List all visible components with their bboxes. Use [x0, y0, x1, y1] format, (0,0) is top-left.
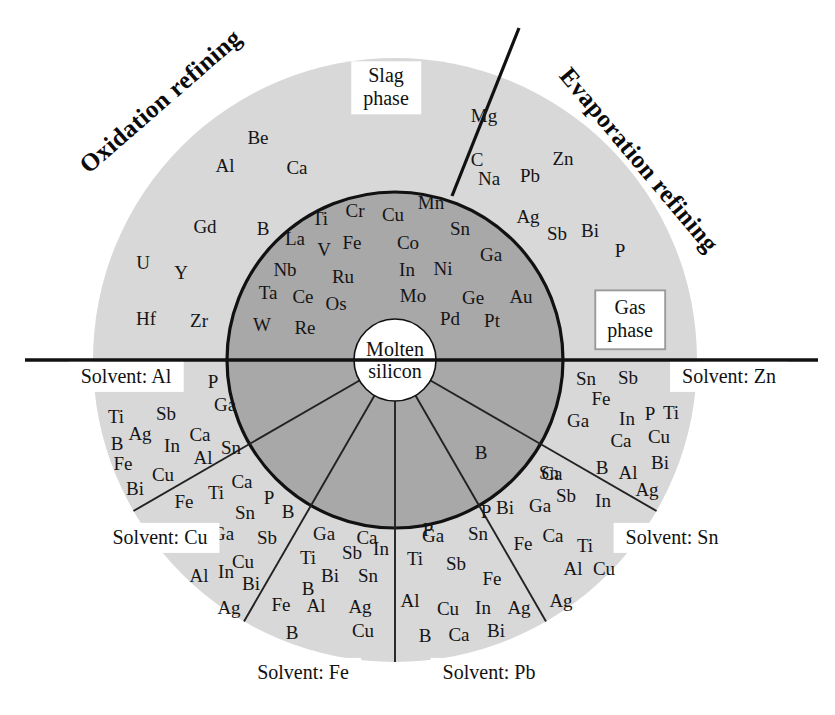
element-symbol: Pt — [484, 311, 500, 330]
element-symbol: W — [253, 315, 271, 334]
element-symbol: Ti — [208, 483, 224, 502]
element-symbol: In — [399, 260, 415, 279]
element-symbol: Mg — [471, 106, 497, 125]
element-symbol: Bi — [126, 479, 144, 498]
element-symbol: Sn — [576, 369, 596, 388]
element-symbol: Ga — [529, 496, 551, 515]
element-symbol: B — [596, 458, 609, 477]
solvent-zn-label: Solvent: Zn — [670, 362, 788, 392]
slag-phase-label: Slag phase — [351, 61, 421, 114]
element-symbol: Ga — [567, 411, 589, 430]
element-symbol: Sn — [539, 463, 559, 482]
element-symbol: Sn — [358, 566, 378, 585]
element-symbol: Sb — [556, 486, 576, 505]
element-symbol: Sn — [450, 219, 470, 238]
element-symbol: Bi — [496, 498, 514, 517]
element-symbol: Ag — [348, 597, 371, 616]
solvent-al-label: Solvent: Al — [69, 362, 184, 392]
element-symbol: Al — [307, 596, 326, 615]
element-symbol: Ge — [462, 288, 484, 307]
element-symbol: Ag — [549, 591, 572, 610]
element-symbol: B — [419, 626, 432, 645]
element-symbol: Bi — [581, 221, 599, 240]
element-symbol: Ce — [292, 287, 313, 306]
element-symbol: In — [619, 409, 635, 428]
solvent-cu-label: Solvent: Cu — [100, 523, 219, 553]
element-symbol: Os — [325, 294, 346, 313]
element-symbol: Ca — [542, 526, 563, 545]
element-symbol: Na — [478, 169, 500, 188]
element-symbol: Fe — [175, 492, 194, 511]
element-symbol: B — [286, 623, 299, 642]
element-symbol: Au — [509, 287, 532, 306]
element-symbol: Cu — [593, 559, 615, 578]
gas-phase-label: Gas phase — [594, 289, 666, 350]
element-symbol: Cu — [382, 205, 404, 224]
element-symbol: Ag — [128, 424, 151, 443]
figure-canvas: BeAlCaGdBUYHfZrMgCZnNaPbAgSbBiPTiCrCuMnL… — [0, 0, 835, 715]
element-symbol: Hf — [136, 309, 156, 328]
element-symbol: Zn — [552, 149, 573, 168]
element-symbol: P — [264, 488, 275, 507]
element-symbol: Be — [247, 128, 268, 147]
element-symbol: P — [645, 404, 656, 423]
element-symbol: Ca — [189, 425, 210, 444]
element-symbol: In — [164, 436, 180, 455]
element-symbol: Ag — [507, 598, 530, 617]
element-symbol: Cr — [346, 201, 365, 220]
element-symbol: Cu — [352, 621, 374, 640]
element-symbol: Ga — [313, 524, 335, 543]
element-symbol: Sb — [547, 224, 567, 243]
element-symbol: P — [481, 502, 492, 521]
element-symbol: Ag — [635, 480, 658, 499]
center-molten-silicon-label: Molten silicon — [366, 338, 424, 383]
element-symbol: Sn — [221, 438, 241, 457]
element-symbol: Bi — [321, 566, 339, 585]
element-symbol: Mn — [418, 193, 444, 212]
element-symbol: Sb — [618, 368, 638, 387]
element-symbol: Al — [401, 591, 420, 610]
element-symbol: V — [317, 240, 331, 259]
element-symbol: Bi — [651, 453, 669, 472]
element-symbol: Fe — [514, 534, 533, 553]
element-symbol: Pd — [440, 309, 460, 328]
element-symbol: Pb — [520, 166, 540, 185]
element-symbol: In — [595, 491, 611, 510]
element-symbol: In — [218, 562, 234, 581]
element-symbol: Mo — [400, 286, 426, 305]
element-symbol: In — [475, 598, 491, 617]
element-symbol: Fe — [114, 454, 133, 473]
element-symbol: Co — [397, 233, 419, 252]
element-symbol: Fe — [592, 389, 611, 408]
element-symbol: Ca — [610, 431, 631, 450]
element-symbol: B — [111, 434, 124, 453]
element-symbol: U — [136, 253, 150, 272]
element-symbol: B — [257, 219, 270, 238]
element-symbol: Zr — [190, 311, 208, 330]
element-symbol: Ti — [577, 536, 593, 555]
element-symbol: Al — [564, 559, 583, 578]
element-symbol: Sn — [468, 524, 488, 543]
element-symbol: Sb — [156, 404, 176, 423]
element-symbol: La — [285, 229, 305, 248]
element-symbol: Re — [294, 318, 315, 337]
element-symbol: Y — [174, 263, 188, 282]
element-symbol: Fe — [272, 595, 291, 614]
element-symbol: Ta — [259, 283, 278, 302]
element-symbol: C — [471, 150, 484, 169]
element-symbol: Ni — [434, 259, 453, 278]
element-symbol: Ga — [214, 395, 236, 414]
element-symbol: B — [475, 443, 488, 462]
element-symbol: Ti — [407, 549, 423, 568]
element-symbol: Ga — [422, 526, 444, 545]
element-symbol: Sb — [446, 554, 466, 573]
solvent-pb-label: Solvent: Pb — [431, 658, 548, 688]
element-symbol: Ti — [312, 209, 328, 228]
element-symbol: Ti — [108, 407, 124, 426]
element-symbol: In — [373, 539, 389, 558]
element-symbol: Bi — [242, 574, 260, 593]
element-symbol: Gd — [193, 217, 216, 236]
element-symbol: Sb — [257, 528, 277, 547]
element-symbol: Ti — [663, 403, 679, 422]
element-symbol: Ca — [448, 625, 469, 644]
